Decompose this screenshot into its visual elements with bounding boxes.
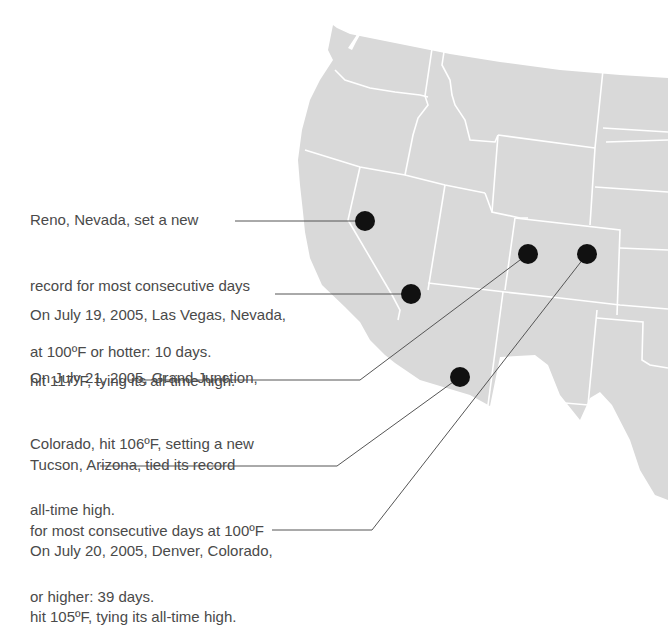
marker-denver[interactable] [577, 244, 597, 264]
annotation-line: hit 105ºF, tying its all-time high. [30, 606, 273, 628]
land-mass [298, 25, 668, 500]
marker-las-vegas[interactable] [401, 284, 421, 304]
annotation-line: On July 21, 2005, Grand Junction, [30, 367, 258, 389]
marker-reno[interactable] [355, 211, 375, 231]
annotation-line: On July 20, 2005, Denver, Colorado, [30, 540, 273, 562]
annotation-denver: On July 20, 2005, Denver, Colorado, hit … [30, 496, 273, 629]
marker-tucson[interactable] [450, 367, 470, 387]
marker-grand-junction[interactable] [518, 244, 538, 264]
annotation-line: Reno, Nevada, set a new [30, 209, 250, 231]
annotation-line: Tucson, Arizona, tied its record [30, 454, 264, 476]
